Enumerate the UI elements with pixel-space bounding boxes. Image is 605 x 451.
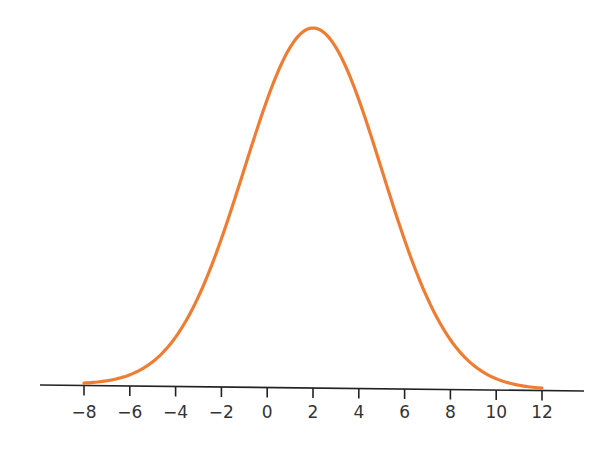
x-tick-label: 8: [445, 402, 456, 422]
x-tick-label: 10: [485, 402, 507, 422]
normal-curve: [84, 28, 542, 388]
x-axis-line: [40, 385, 584, 391]
x-tick-label: −8: [71, 402, 96, 422]
x-tick-label: 6: [399, 402, 410, 422]
x-axis-ticks: −8−6−4−2024681012: [71, 385, 552, 422]
normal-distribution-chart: −8−6−4−2024681012: [0, 0, 605, 451]
x-tick-label: 12: [531, 402, 553, 422]
x-tick-label: 0: [262, 402, 273, 422]
x-tick-label: −2: [209, 402, 234, 422]
x-tick-label: 4: [353, 402, 364, 422]
x-tick-label: 2: [308, 402, 319, 422]
x-tick-label: −6: [117, 402, 142, 422]
x-tick-label: −4: [163, 402, 188, 422]
